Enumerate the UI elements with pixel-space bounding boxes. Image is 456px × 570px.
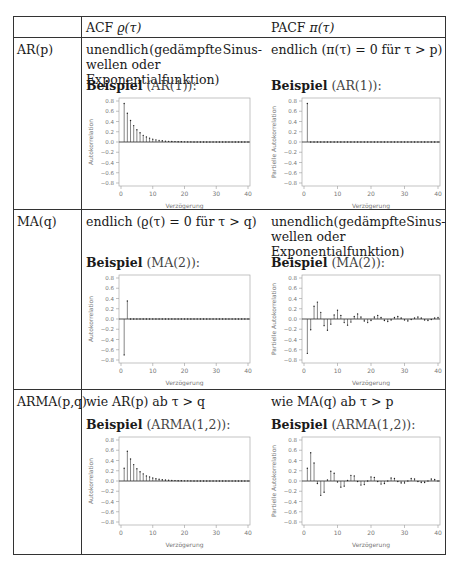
data-point [193,480,194,481]
y-tick-label: 0.4 [288,119,297,125]
data-point [244,318,245,319]
data-point [171,480,172,481]
y-axis-label: Autokorrelation [87,458,94,504]
y-tick-label: −0.6 [101,170,115,176]
y-tick-label: −0.4 [284,337,298,343]
x-tick-label: 0 [302,529,306,536]
data-point [158,318,159,319]
data-point [340,486,341,487]
data-point [397,316,398,317]
ma-pacf-description: unendlich (gedämpfte Sinus- wellen oder … [271,214,445,259]
x-tick-label: 0 [119,190,123,197]
model-column-divider [81,17,82,554]
data-point [320,312,321,313]
x-tick-label: 40 [244,190,252,197]
data-point [340,141,341,142]
data-point [400,317,401,318]
arma-acf-example-title: Beispiel (ARMA(1,2)): [86,417,230,432]
data-point [310,329,311,330]
data-point [203,318,204,319]
data-point [370,141,371,142]
data-point [203,480,204,481]
data-point [212,480,213,481]
ma2-acf-plot: 0.80.60.40.20.0−0.2−0.4−0.6−0.8010203040… [84,271,254,386]
data-point [317,483,318,484]
data-point [219,318,220,319]
y-tick-label: 0.4 [105,296,114,302]
ar-acf-example-title: Beispiel (AR(1)): [86,78,197,93]
y-tick-label: 0.2 [288,129,297,135]
data-point [193,141,194,142]
data-point [354,475,355,476]
data-point [344,485,345,486]
y-tick-label: 0.4 [105,458,114,464]
data-point [209,141,210,142]
y-tick-label: −0.8 [101,357,115,363]
x-tick-label: 20 [367,529,375,536]
data-point [187,141,188,142]
x-tick-label: 40 [244,529,252,536]
x-tick-label: 30 [212,190,220,197]
ma-pacf-example-title: Beispiel (MA(2)): [271,255,385,270]
data-point [123,103,124,104]
acf-label: ACF [86,20,113,35]
data-point [374,316,375,317]
data-point [200,318,201,319]
x-axis-label: Verzögerung [352,541,390,549]
data-point [404,141,405,142]
data-point [384,320,385,321]
data-point [225,318,226,319]
x-tick-label: 30 [401,529,409,536]
data-point [333,314,334,315]
data-point [320,141,321,142]
data-point [421,482,422,483]
data-point [139,318,140,319]
y-tick-label: 0.0 [288,139,297,145]
data-point [370,476,371,477]
example-model: (MA(2)): [331,255,385,270]
data-point [424,482,425,483]
data-point [174,141,175,142]
data-point [139,471,140,472]
data-point [222,141,223,142]
data-point [327,330,328,331]
data-point [158,479,159,480]
data-point [414,478,415,479]
data-point [337,310,338,311]
data-point [350,141,351,142]
data-point [184,318,185,319]
data-point [206,318,207,319]
y-tick-label: −0.4 [101,337,115,343]
data-point [384,483,385,484]
data-point [354,316,355,317]
x-tick-label: 0 [119,529,123,536]
header-pacf: PACF π(τ) [271,20,334,35]
x-tick-label: 20 [181,190,189,197]
data-point [377,315,378,316]
data-point [327,479,328,480]
data-point [313,305,314,306]
desc-word: (gedämpfte [149,42,222,57]
data-point [327,141,328,142]
y-tick-label: −0.8 [284,519,298,525]
y-tick-label: −0.6 [284,347,298,353]
data-point [231,480,232,481]
data-point [228,318,229,319]
data-point [374,141,375,142]
x-tick-label: 0 [119,367,123,374]
data-point [171,141,172,142]
data-point [414,317,415,318]
data-point [434,141,435,142]
data-point [123,354,124,355]
data-point [209,318,210,319]
data-point [241,141,242,142]
x-tick-label: 10 [334,367,342,374]
data-point [437,480,438,481]
y-tick-label: 0.4 [105,119,114,125]
data-point [184,141,185,142]
x-tick-label: 10 [334,190,342,197]
data-point [357,481,358,482]
data-point [247,480,248,481]
data-point [313,462,314,463]
y-tick-label: 0.8 [288,98,297,104]
